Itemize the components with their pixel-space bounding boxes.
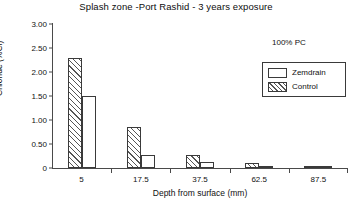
x-tick-label: 62.5 (251, 175, 267, 184)
bar-control-87.5 (304, 166, 318, 168)
y-tick-mark (49, 96, 52, 97)
x-tick-label: 17.5 (133, 175, 149, 184)
x-tick-mark (347, 168, 348, 173)
legend-swatch-hatched-icon (268, 82, 287, 92)
legend-item-control: Control (268, 81, 341, 92)
bar-group (127, 24, 155, 168)
x-tick-label: 87.5 (311, 175, 327, 184)
chart-legend: Zemdrain Control (262, 62, 346, 97)
y-tick-mark (49, 24, 52, 25)
y-axis-label: Chloride (%Cl) (0, 41, 4, 96)
bar-zemdrain-87.5 (318, 166, 332, 168)
bar-control-17.5 (127, 127, 141, 168)
chart-title: Splash zone -Port Rashid - 3 years expos… (46, 1, 306, 13)
chart-container: Splash zone -Port Rashid - 3 years expos… (0, 0, 358, 208)
legend-label-control: Control (292, 82, 318, 91)
x-tick-mark (230, 168, 231, 173)
y-tick-mark (49, 120, 52, 121)
bar-control-5 (68, 58, 82, 168)
x-tick-label: 5 (79, 175, 83, 184)
legend-item-zemdrain: Zemdrain (268, 67, 341, 78)
chart-annotation: 100% PC (272, 38, 306, 47)
bar-control-62.5 (245, 163, 259, 168)
bar-zemdrain-17.5 (141, 155, 155, 168)
legend-label-zemdrain: Zemdrain (292, 68, 326, 77)
x-tick-mark (170, 168, 171, 173)
x-axis-label: Depth from surface (mm) (52, 188, 348, 198)
x-tick-mark (111, 168, 112, 173)
bar-group (186, 24, 214, 168)
x-tick-label: 37.5 (192, 175, 208, 184)
y-tick-mark (49, 168, 52, 169)
bar-control-37.5 (186, 155, 200, 168)
bar-zemdrain-37.5 (200, 162, 214, 168)
x-tick-mark (289, 168, 290, 173)
y-tick-mark (49, 72, 52, 73)
x-axis-line (52, 168, 348, 169)
bar-zemdrain-62.5 (259, 166, 273, 168)
y-tick-mark (49, 144, 52, 145)
bar-zemdrain-5 (82, 96, 96, 168)
y-tick-mark (49, 48, 52, 49)
legend-swatch-open-icon (268, 68, 287, 78)
bar-group (68, 24, 96, 168)
